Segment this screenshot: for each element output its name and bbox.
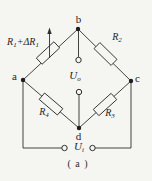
- uo-sub: o: [77, 75, 81, 83]
- terminal-output-top: [76, 57, 81, 62]
- resistor-r3-label: R3: [100, 107, 120, 118]
- node-label-c: c: [131, 72, 144, 84]
- r1-delta: +ΔR: [17, 36, 36, 47]
- r1-sub2: 1: [35, 41, 39, 49]
- figure-caption: ( a ): [56, 158, 100, 169]
- wheatstone-bridge-figure: R1+ΔR1 R2 R4 R3 b a c d Uo Ui ( a ): [0, 0, 152, 181]
- resistor-r2-body: [94, 43, 117, 66]
- ui-base: U: [74, 140, 82, 152]
- resistor-r2-label: R2: [107, 31, 127, 42]
- r2-sub: 2: [118, 36, 122, 44]
- terminal-input-right: [90, 145, 95, 150]
- terminal-output-bottom: [76, 89, 81, 94]
- node-dot-b: [76, 27, 80, 31]
- node-label-b: b: [72, 13, 85, 25]
- ui-sub: i: [82, 146, 84, 154]
- output-voltage-label: Uo: [65, 69, 85, 81]
- resistor-r1-label: R1+ΔR1: [2, 36, 44, 47]
- r3-sub: 3: [111, 112, 115, 120]
- node-dot-a: [21, 78, 25, 82]
- node-label-a: a: [8, 70, 21, 82]
- circuit-canvas: [0, 0, 152, 181]
- input-voltage-label: Ui: [70, 140, 88, 152]
- r4-sub: 4: [45, 111, 49, 119]
- resistor-r4-label: R4: [34, 106, 54, 117]
- terminal-input-left: [62, 145, 67, 150]
